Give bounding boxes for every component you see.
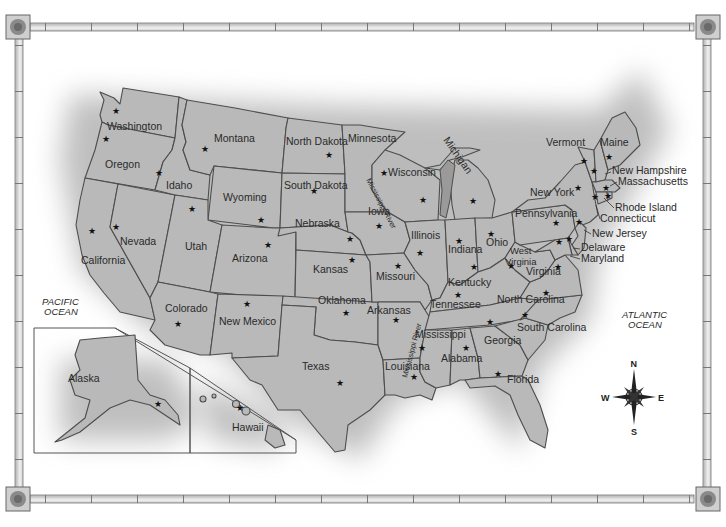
label-new-mexico: New Mexico [219,315,276,327]
label-maine: Maine [600,136,629,148]
label-california: California [81,254,126,266]
label-wyoming: Wyoming [223,191,267,203]
star-icon: ★ [605,152,613,162]
label-massachusetts: Massachusetts [618,175,688,187]
label-florida: Florida [507,373,539,385]
label-north-carolina: North Carolina [497,293,565,305]
star-icon: ★ [487,229,495,239]
label-missouri: Missouri [376,270,415,282]
star-icon: ★ [521,310,529,320]
label-connecticut: Connecticut [600,212,656,224]
label-new-york: New York [530,186,575,198]
star-icon: ★ [462,343,470,353]
star-icon: ★ [310,186,318,196]
label-colorado: Arizona [232,252,268,264]
state-arizona [150,282,218,355]
star-icon: ★ [375,221,383,231]
label-north-dakota: North Dakota [286,135,348,147]
star-icon: ★ [542,288,550,298]
label-kansas: Kansas [313,263,348,275]
label-minnesota: Minnesota [348,132,397,144]
label-mississippi: Mississippi [415,328,466,340]
star-icon: ★ [264,240,272,250]
label-arizona: Colorado [165,302,208,314]
star-icon: ★ [552,218,560,228]
label-nebraska: Nebraska [295,217,340,229]
star-icon: ★ [486,317,494,327]
star-icon: ★ [201,144,209,154]
label-utah: Utah [185,240,207,252]
star-icon: ★ [236,403,244,413]
star-icon: ★ [325,150,333,160]
star-icon: ★ [555,237,563,247]
star-icon: ★ [112,222,120,232]
star-icon: ★ [348,255,356,265]
star-icon: ★ [565,234,573,244]
label-atlantic-ocean-line2: OCEAN [628,319,662,330]
label-maryland: Maryland [581,252,624,264]
star-icon: ★ [574,183,582,193]
label-alaska: Alaska [68,372,100,384]
star-icon: ★ [416,248,424,258]
star-icon: ★ [469,196,477,206]
star-icon: ★ [591,192,599,202]
star-icon: ★ [418,343,426,353]
label-texas: Texas [302,360,329,372]
star-icon: ★ [392,315,400,325]
label-idaho: Idaho [166,179,192,191]
star-icon: ★ [154,399,162,409]
star-icon: ★ [419,195,427,205]
us-map: Washington Oregon California Idaho Nevad… [0,0,726,527]
label-west-virginia-line1: West [510,245,532,256]
label-nevada: Nevada [120,235,156,247]
compass-rose-icon: N S E W [601,359,664,437]
compass-s: S [631,427,637,437]
star-icon: ★ [554,262,562,272]
star-icon: ★ [243,299,251,309]
label-kentucky: Kentucky [448,276,492,288]
star-icon: ★ [88,226,96,236]
star-icon: ★ [454,290,462,300]
label-oklahoma: Oklahoma [318,294,366,306]
label-pennsylvania: Pennsylvania [515,207,578,219]
label-alabama: Alabama [441,352,483,364]
label-new-jersey: New Jersey [592,227,648,239]
label-hawaii: Hawaii [232,421,264,433]
label-georgia: Georgia [484,334,522,346]
star-icon: ★ [410,372,418,382]
label-illinois: Illinois [411,229,440,241]
star-icon: ★ [604,191,612,201]
star-icon: ★ [257,215,265,225]
label-wisconsin: Wisconsin [388,166,436,178]
star-icon: ★ [336,378,344,388]
star-icon: ★ [346,234,354,244]
label-pacific-ocean-line2: OCEAN [44,306,78,317]
star-icon: ★ [590,166,598,176]
star-icon: ★ [102,134,110,144]
star-icon: ★ [188,204,196,214]
compass-e: E [658,393,664,403]
label-montana: Montana [214,132,255,144]
label-washington: Washington [107,120,162,132]
star-icon: ★ [174,319,182,329]
star-icon: ★ [380,168,388,178]
compass-w: W [601,393,610,403]
star-icon: ★ [470,262,478,272]
star-icon: ★ [494,369,502,379]
label-indiana: Indiana [448,243,483,255]
label-south-carolina: South Carolina [517,321,587,333]
compass-n: N [631,359,638,369]
star-icon: ★ [580,156,588,166]
star-icon: ★ [455,236,463,246]
star-icon: ★ [507,261,515,271]
star-icon: ★ [575,217,583,227]
star-icon: ★ [394,261,402,271]
star-icon: ★ [155,168,163,178]
star-icon: ★ [112,106,120,116]
label-arkansas: Arkansas [367,304,411,316]
label-oregon: Oregon [105,158,140,170]
label-vermont: Vermont [546,136,585,148]
star-icon: ★ [342,308,350,318]
